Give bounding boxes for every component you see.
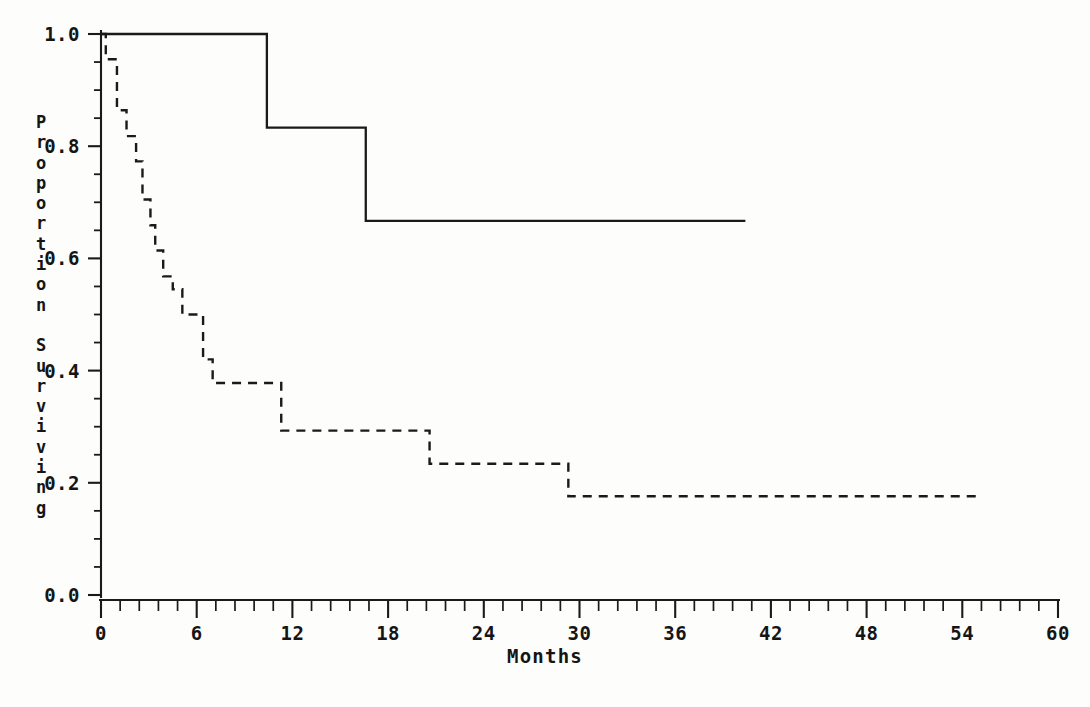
- y-axis-title-glyph: u: [28, 356, 54, 376]
- y-axis-title-glyph: P: [28, 112, 54, 132]
- y-axis-title-glyph: i: [28, 457, 54, 477]
- y-axis-title-glyph: v: [28, 437, 54, 457]
- y-axis-title-glyph: r: [28, 132, 54, 152]
- y-tick-label: 1.0: [22, 23, 80, 45]
- x-tick-label: 48: [843, 622, 891, 644]
- series-solid-curve: [101, 34, 745, 221]
- y-axis-title-glyph: [28, 315, 54, 335]
- kaplan-meier-chart: 0.00.20.40.60.81.0 06121824303642485460 …: [0, 0, 1090, 707]
- y-axis-title-glyph: t: [28, 234, 54, 254]
- x-tick-label: 6: [173, 622, 221, 644]
- x-tick-label: 30: [556, 622, 604, 644]
- axis-lines: [99, 30, 1060, 600]
- plot-area: [0, 0, 1090, 707]
- y-axis-title-glyph: n: [28, 477, 54, 497]
- x-tick-label: 60: [1034, 622, 1082, 644]
- x-tick-label: 0: [77, 622, 125, 644]
- x-tick-label: 54: [938, 622, 986, 644]
- y-axis-title-glyph: o: [28, 153, 54, 173]
- y-axis-title-glyph: S: [28, 335, 54, 355]
- y-axis-title-glyph: v: [28, 396, 54, 416]
- x-tick-label: 24: [460, 622, 508, 644]
- x-tick-label: 42: [747, 622, 795, 644]
- x-axis-title: Months: [0, 645, 1090, 667]
- y-axis-title-glyph: o: [28, 193, 54, 213]
- y-tick-label: 0.0: [22, 584, 80, 606]
- x-tick-label: 18: [364, 622, 412, 644]
- x-tick-label: 12: [268, 622, 316, 644]
- y-axis-title: Proportion Surviving: [28, 112, 54, 518]
- x-tick-label: 36: [651, 622, 699, 644]
- x-axis-major-ticks: [101, 600, 1058, 618]
- y-axis-title-glyph: r: [28, 213, 54, 233]
- data-series-layer: [101, 34, 978, 496]
- y-axis-title-glyph: r: [28, 376, 54, 396]
- series-dashed-curve: [101, 34, 978, 496]
- y-axis-title-glyph: i: [28, 416, 54, 436]
- y-axis-title-glyph: n: [28, 295, 54, 315]
- y-axis-title-glyph: g: [28, 498, 54, 518]
- y-axis-title-glyph: p: [28, 173, 54, 193]
- y-axis-title-glyph: i: [28, 254, 54, 274]
- y-axis-title-glyph: o: [28, 274, 54, 294]
